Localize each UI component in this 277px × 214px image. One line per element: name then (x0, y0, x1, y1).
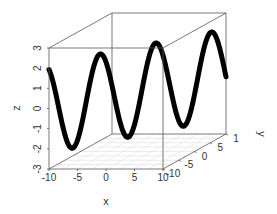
z-tick-label: 3 (32, 45, 43, 51)
z-tick-label: -1 (32, 124, 43, 133)
z-axis: -3-2-10123 (32, 45, 49, 174)
z-tick-label: 0 (32, 105, 43, 111)
y-axis-label: y (256, 131, 268, 137)
y-tick-label: 5 (217, 142, 223, 153)
y-tick-label: -5 (184, 159, 193, 170)
x-tick-label: -5 (73, 172, 82, 183)
y-tick-label: 0 (202, 151, 208, 162)
z-tick-label: 2 (32, 65, 43, 71)
y-tick-label: -10 (166, 168, 181, 179)
z-tick-label: 1 (32, 85, 43, 91)
x-tick-label: 0 (103, 172, 109, 183)
3d-plot: -10-50510 -10-5051 -3-2-10123 x y z (0, 0, 277, 214)
curve-line (49, 32, 226, 148)
z-tick-label: -2 (32, 144, 43, 153)
x-axis-label: x (103, 195, 109, 207)
x-tick-label: 5 (132, 172, 138, 183)
data-curve (49, 32, 226, 148)
z-tick-label: -3 (32, 164, 43, 173)
x-axis: -10-50510 (42, 169, 169, 183)
y-tick-label: 1 (233, 133, 239, 144)
z-axis-label: z (10, 105, 22, 111)
x-tick-label: -10 (42, 172, 57, 183)
